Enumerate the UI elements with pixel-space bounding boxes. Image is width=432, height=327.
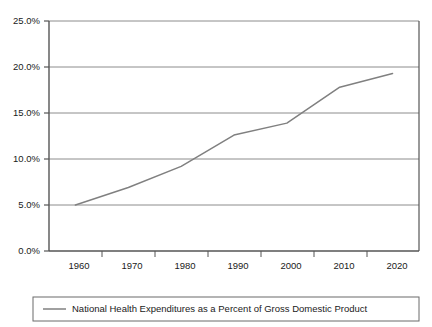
x-tick-label-2000: 2000 [280, 260, 301, 271]
x-tick-label-2020: 2020 [386, 260, 407, 271]
x-tick-label-1990: 1990 [227, 260, 248, 271]
chart-container: 25.0% 20.0% 15.0% 10.0% 5.0% 0.0% 1960 1… [0, 0, 432, 327]
y-tick-label-15: 15.0% [13, 107, 40, 118]
line-chart: 25.0% 20.0% 15.0% 10.0% 5.0% 0.0% 1960 1… [0, 0, 432, 327]
y-tick-label-20: 20.0% [13, 61, 40, 72]
legend-label: National Health Expenditures as a Percen… [72, 303, 368, 314]
y-tick-label-10: 10.0% [13, 153, 40, 164]
x-tick-label-2010: 2010 [333, 260, 354, 271]
plot-background [49, 21, 419, 251]
x-tick-label-1970: 1970 [121, 260, 142, 271]
x-axis-tick-labels: 1960 1970 1980 1990 2000 2010 2020 [68, 260, 407, 271]
y-tick-label-5: 5.0% [18, 199, 40, 210]
x-tick-label-1980: 1980 [174, 260, 195, 271]
x-tick-label-1960: 1960 [68, 260, 89, 271]
y-axis-ticks [44, 21, 49, 251]
y-tick-label-0: 0.0% [18, 245, 40, 256]
y-tick-label-25: 25.0% [13, 15, 40, 26]
y-axis-tick-labels: 25.0% 20.0% 15.0% 10.0% 5.0% 0.0% [13, 15, 40, 256]
x-axis-ticks [102, 251, 367, 257]
